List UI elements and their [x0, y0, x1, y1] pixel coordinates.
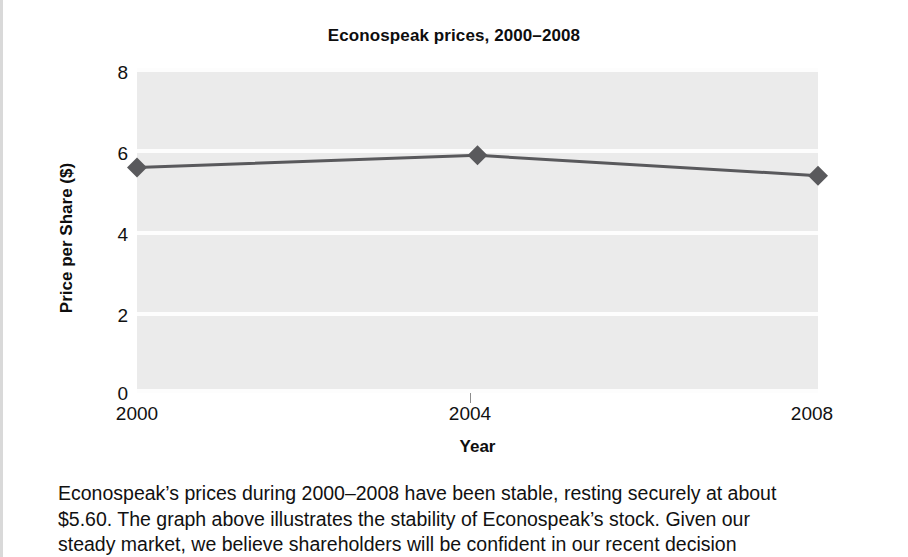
y-tick-label-8: 8 [88, 62, 128, 84]
x-tick-mark-2004 [470, 393, 471, 403]
plot-area [137, 68, 818, 393]
chart-figure: Econospeak prices, 2000–2008 8 6 4 2 0 P… [0, 0, 908, 470]
y-tick-label-2: 2 [88, 305, 128, 327]
y-axis-title: Price per Share ($) [57, 123, 77, 353]
chart-title: Econospeak prices, 2000–2008 [0, 26, 908, 46]
data-point-marker [468, 145, 488, 165]
data-point-marker [808, 166, 828, 186]
caption-paragraph: Econospeak’s prices during 2000–2008 hav… [58, 481, 858, 557]
y-tick-label-6: 6 [88, 143, 128, 165]
series-line-and-markers [137, 68, 818, 393]
x-axis-title: Year [137, 437, 818, 457]
y-tick-label-0: 0 [88, 383, 128, 405]
x-tick-label-2008: 2008 [752, 403, 872, 425]
caption-line-2: $5.60. The graph above illustrates the s… [58, 507, 858, 533]
y-tick-label-4: 4 [88, 224, 128, 246]
caption-line-1: Econospeak’s prices during 2000–2008 hav… [58, 481, 858, 507]
x-tick-label-2000: 2000 [77, 403, 197, 425]
caption-line-3: steady market, we believe shareholders w… [58, 532, 858, 557]
x-tick-label-2004: 2004 [410, 403, 530, 425]
data-point-marker [127, 158, 147, 178]
